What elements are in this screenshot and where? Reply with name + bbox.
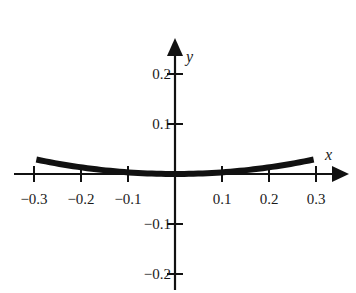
x-axis-arrow-icon xyxy=(332,166,349,182)
x-tick-label: −0.1 xyxy=(114,191,141,207)
x-tick-label: 0.2 xyxy=(260,191,279,207)
x-tick-label: −0.2 xyxy=(67,191,94,207)
y-axis-label: y xyxy=(184,48,194,66)
chart: −0.3−0.2−0.10.10.20.3 0.20.1−0.1−0.2 x y xyxy=(0,0,356,293)
y-tick-label: 0.1 xyxy=(152,116,171,132)
x-tick-label: −0.3 xyxy=(20,191,47,207)
y-axis-arrow-icon xyxy=(167,38,183,56)
y-tick-label: −0.2 xyxy=(144,266,171,282)
y-tick-label: 0.2 xyxy=(152,66,171,82)
x-tick-label: 0.1 xyxy=(213,191,232,207)
x-axis-label: x xyxy=(324,146,332,163)
x-tick-label: 0.3 xyxy=(307,191,326,207)
y-tick-label: −0.1 xyxy=(144,216,171,232)
